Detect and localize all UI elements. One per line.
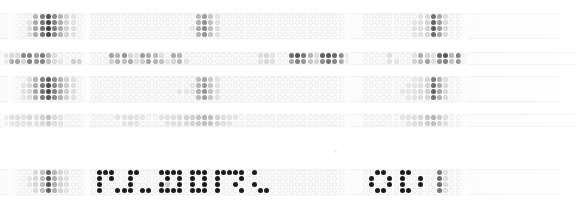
grid-cell — [462, 83, 467, 88]
grid-cell — [449, 32, 454, 37]
grid-cell — [202, 188, 207, 193]
grid-cell — [153, 95, 158, 100]
grid-cell — [159, 121, 164, 126]
grid-cell — [46, 95, 51, 100]
grid-cell — [202, 170, 207, 175]
grid-cell — [103, 170, 108, 175]
grid-cell — [443, 77, 448, 82]
grid-cell — [332, 188, 337, 193]
grid-cell — [146, 53, 151, 58]
grid-cell — [109, 20, 114, 25]
grid-cell — [215, 121, 220, 126]
grid-cell — [363, 20, 368, 25]
grid-cell — [418, 121, 423, 126]
grid-cell — [221, 121, 226, 126]
grid-cell — [165, 83, 170, 88]
grid-cell — [283, 182, 288, 187]
grid-cell — [109, 59, 114, 64]
grid-cell — [387, 83, 392, 88]
grid-cell — [165, 26, 170, 31]
grid-cell — [177, 53, 182, 58]
grid-cell — [190, 59, 195, 64]
grid-cell — [52, 77, 57, 82]
grid-cell — [449, 121, 454, 126]
grid-cell — [252, 26, 257, 31]
grid-cell — [258, 59, 263, 64]
grid-cell — [202, 89, 207, 94]
grid-cell — [58, 95, 63, 100]
grid-cell — [418, 53, 423, 58]
grid-cell — [97, 14, 102, 19]
grid-cell — [339, 32, 344, 37]
grid-cell — [52, 115, 57, 120]
grid-cell — [412, 115, 417, 120]
grid-cell — [215, 14, 220, 19]
grid-cell — [134, 182, 139, 187]
grid-cell — [239, 89, 244, 94]
grid-cell — [252, 182, 257, 187]
grid-cell — [400, 188, 405, 193]
grid-cell — [456, 20, 461, 25]
grid-cell — [456, 32, 461, 37]
grid-cell — [46, 89, 51, 94]
grid-cell — [153, 14, 158, 19]
grid-cell — [326, 188, 331, 193]
grid-cell — [394, 14, 399, 19]
grid-cell — [184, 182, 189, 187]
grid-cell — [115, 77, 120, 82]
grid-cell — [425, 89, 430, 94]
grid-cell — [246, 121, 251, 126]
grid-cell — [363, 32, 368, 37]
grid-cell — [15, 20, 20, 25]
grid-cell — [456, 95, 461, 100]
grid-cell — [227, 170, 232, 175]
grid-cell — [456, 14, 461, 19]
grid-cell — [431, 182, 436, 187]
grid-cell — [277, 188, 282, 193]
grid-cell — [177, 176, 182, 181]
grid-cell — [431, 121, 436, 126]
grid-cell — [27, 20, 32, 25]
grid-cell — [227, 53, 232, 58]
grid-cell — [400, 115, 405, 120]
grid-cell — [190, 182, 195, 187]
grid-cell — [221, 14, 226, 19]
grid-cell — [21, 53, 26, 58]
grid-cell — [283, 26, 288, 31]
grid-cell — [221, 115, 226, 120]
grid-cell — [339, 83, 344, 88]
grid-cell — [239, 176, 244, 181]
grid-cell — [363, 121, 368, 126]
band-5-group-b — [90, 169, 350, 196]
grid-cell — [21, 14, 26, 19]
grid-cell — [456, 188, 461, 193]
grid-cell — [21, 182, 26, 187]
grid-cell — [196, 32, 201, 37]
grid-cell — [91, 77, 96, 82]
grid-cell — [233, 59, 238, 64]
grid-cell — [233, 170, 238, 175]
grid-cell — [9, 53, 14, 58]
grid-cell — [97, 176, 102, 181]
grid-cell — [394, 59, 399, 64]
grid-cell — [301, 20, 306, 25]
grid-cell — [91, 176, 96, 181]
grid-cell — [283, 20, 288, 25]
grid-cell — [21, 115, 26, 120]
grid-cell — [431, 188, 436, 193]
grid-cell — [91, 53, 96, 58]
band-1-group-c — [362, 13, 467, 40]
grid-cell — [264, 20, 269, 25]
grid-cell — [443, 182, 448, 187]
grid-cell — [456, 121, 461, 126]
grid-cell — [58, 83, 63, 88]
grid-cell — [65, 53, 70, 58]
grid-cell — [239, 182, 244, 187]
grid-cell — [387, 77, 392, 82]
grid-cell — [387, 26, 392, 31]
grid-cell — [270, 115, 275, 120]
grid-cell — [437, 53, 442, 58]
grid-cell — [202, 121, 207, 126]
grid-cell — [332, 115, 337, 120]
grid-cell — [40, 26, 45, 31]
